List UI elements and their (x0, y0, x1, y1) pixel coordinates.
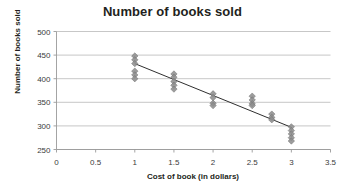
y-tick-label: 350 (37, 98, 51, 107)
data-points (132, 53, 295, 144)
x-tick-label: 3.5 (325, 158, 337, 167)
x-tick-label: 3 (289, 158, 294, 167)
y-axis-tick-labels: 250300350400450500 (37, 28, 51, 155)
y-tick-label: 400 (37, 75, 51, 84)
x-tick-label: 0.5 (90, 158, 102, 167)
y-tick-label: 250 (37, 146, 51, 155)
chart-container: Number of books sold Number of books sol… (0, 0, 345, 190)
data-point (171, 86, 177, 92)
data-point (132, 76, 138, 82)
y-tick-label: 450 (37, 51, 51, 60)
plot-area: 250300350400450500 00.511.522.533.5 (0, 0, 345, 190)
x-tick-label: 2.5 (247, 158, 259, 167)
x-axis-tick-labels: 00.511.522.533.5 (54, 158, 336, 167)
y-tick-label: 500 (37, 28, 51, 37)
x-tick-label: 0 (54, 158, 59, 167)
x-tick-label: 1 (133, 158, 138, 167)
x-tick-label: 2 (211, 158, 216, 167)
data-point (132, 60, 138, 66)
x-tick-label: 1.5 (168, 158, 180, 167)
y-tick-label: 300 (37, 122, 51, 131)
